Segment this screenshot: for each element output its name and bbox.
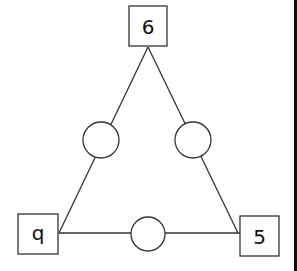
box-top-label: 6 [142,15,155,39]
circle-right-edge[interactable] [175,122,211,158]
circle-bottom-edge[interactable] [131,217,165,251]
number-triangle-diagram: 6 q 5 [0,0,297,271]
box-bottom-right-label: 5 [253,225,266,249]
right-border [294,0,297,271]
circle-left-edge[interactable] [83,122,119,158]
box-bottom-left-label: q [32,221,45,245]
